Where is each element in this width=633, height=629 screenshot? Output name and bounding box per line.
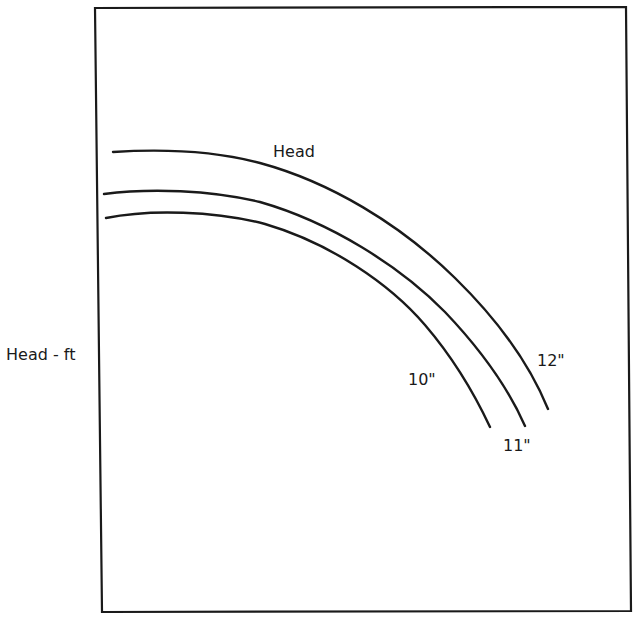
curve-label-10: 10" — [408, 370, 436, 389]
curve-10-inch — [106, 212, 490, 427]
curve-label-11: 11" — [503, 436, 531, 455]
plot-frame — [95, 7, 631, 612]
pump-curve-chart: Head Head - ft 10" 11" 12" — [0, 0, 633, 629]
curve-label-12: 12" — [537, 351, 565, 370]
y-axis-label: Head - ft — [6, 345, 75, 364]
curve-title-head: Head — [273, 142, 315, 161]
curve-11-inch — [104, 191, 525, 426]
curve-12-inch — [113, 151, 548, 409]
